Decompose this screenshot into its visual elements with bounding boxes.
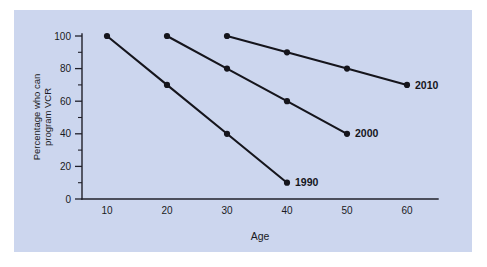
data-point-1990-30 bbox=[224, 131, 230, 137]
series-label-2010: 2010 bbox=[415, 79, 439, 91]
y-axis-ticks bbox=[75, 36, 82, 199]
data-point-2000-40 bbox=[284, 98, 290, 104]
data-point-1990-40 bbox=[284, 180, 290, 186]
chart-figure: 100 80 60 40 20 0 10 20 30 40 50 60 Age … bbox=[0, 0, 487, 267]
y-tick-label-0: 0 bbox=[65, 194, 71, 205]
y-tick-label-60: 60 bbox=[60, 96, 72, 107]
x-tick-label-20: 20 bbox=[161, 205, 173, 216]
data-point-2010-60 bbox=[404, 82, 410, 88]
series-2010 bbox=[224, 33, 410, 88]
y-tick-label-100: 100 bbox=[54, 31, 71, 42]
data-point-1990-10 bbox=[104, 33, 110, 39]
y-axis-title: Percentage who can program VCR bbox=[31, 74, 53, 161]
y-tick-label-40: 40 bbox=[60, 128, 72, 139]
y-axis-tick-labels: 100 80 60 40 20 0 bbox=[54, 31, 71, 205]
y-tick-label-80: 80 bbox=[60, 63, 72, 74]
series-2000 bbox=[164, 33, 350, 137]
x-axis-tick-labels: 10 20 30 40 50 60 bbox=[101, 205, 413, 216]
series-label-1990: 1990 bbox=[295, 176, 319, 188]
y-axis-title-line1: Percentage who can bbox=[31, 74, 42, 161]
x-tick-label-60: 60 bbox=[401, 205, 413, 216]
data-point-2000-50 bbox=[344, 131, 350, 137]
data-point-1990-20 bbox=[164, 82, 170, 88]
series-label-2000: 2000 bbox=[355, 127, 379, 139]
chart-plot-area: 100 80 60 40 20 0 10 20 30 40 50 60 Age … bbox=[0, 0, 487, 267]
series-layer bbox=[104, 33, 410, 186]
data-point-2010-40 bbox=[284, 49, 290, 55]
y-axis-title-line2: program VCR bbox=[42, 88, 53, 146]
series-label-layer: 199020002010 bbox=[295, 79, 439, 189]
data-point-2010-30 bbox=[224, 33, 230, 39]
x-tick-label-30: 30 bbox=[221, 205, 233, 216]
series-line-2000 bbox=[167, 36, 347, 134]
series-line-1990 bbox=[107, 36, 287, 183]
series-1990 bbox=[104, 33, 290, 186]
y-tick-label-20: 20 bbox=[60, 161, 72, 172]
data-point-2010-50 bbox=[344, 66, 350, 72]
x-axis-title: Age bbox=[251, 230, 270, 242]
series-line-2010 bbox=[227, 36, 407, 85]
x-tick-label-50: 50 bbox=[341, 205, 353, 216]
data-point-2000-20 bbox=[164, 33, 170, 39]
x-tick-label-40: 40 bbox=[281, 205, 293, 216]
x-tick-label-10: 10 bbox=[101, 205, 113, 216]
data-point-2000-30 bbox=[224, 66, 230, 72]
